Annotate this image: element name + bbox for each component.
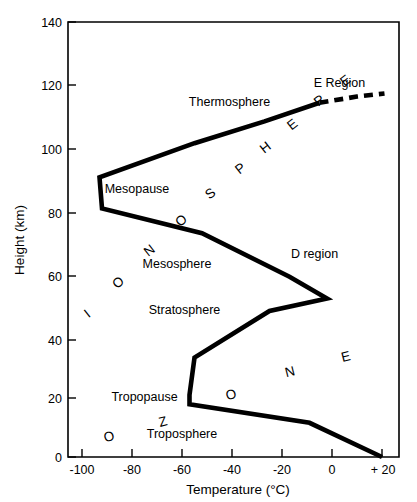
y-tick-label-40: 40	[48, 334, 62, 348]
y-tick-label-20: 20	[48, 392, 62, 406]
layer-label-troposphere: Troposphere	[147, 427, 217, 441]
layer-label-stratosphere: Stratosphere	[149, 303, 221, 317]
y-tick-label-100: 100	[41, 143, 62, 157]
ionosphere-letter-1: O	[109, 273, 127, 291]
y-tick-label-0: 0	[55, 451, 62, 465]
y-tick-label-60: 60	[48, 270, 62, 284]
x-tick-label-neg100: -100	[69, 463, 94, 477]
x-axis-tick-labels: -100 -80 -60 -40 -20 0 + 20	[69, 463, 395, 477]
ozone-letter-3: N	[283, 363, 296, 380]
y-tick-label-80: 80	[48, 207, 62, 221]
temperature-profile-dashed	[320, 93, 385, 102]
x-tick-label-0: 0	[329, 463, 336, 477]
y-tick-label-140: 140	[41, 16, 62, 30]
x-tick-label-neg40: -40	[223, 463, 241, 477]
atmosphere-temperature-profile-chart: 140 120 100 80 60 40 20 0 Height (km) -1…	[0, 0, 417, 502]
x-axis-ticks	[82, 449, 382, 457]
layer-label-thermosphere: Thermosphere	[189, 95, 270, 109]
layer-label-mesopause: Mesopause	[105, 182, 170, 196]
region-label-d-region: D region	[291, 247, 338, 261]
y-axis-ticks	[68, 22, 76, 457]
x-tick-label-neg80: -80	[123, 463, 141, 477]
y-tick-label-120: 120	[41, 79, 62, 93]
layer-label-tropopause: Tropopause	[111, 390, 177, 404]
x-tick-label-neg60: -60	[173, 463, 191, 477]
x-tick-label-neg20: -20	[273, 463, 291, 477]
ionospheric-region-labels: E RegionD region	[291, 76, 365, 261]
ozone-letter-0: O	[102, 428, 116, 445]
ozone-letter-2: O	[224, 386, 238, 403]
ionosphere-word-letters: IONOSPHERE	[81, 72, 353, 321]
ionosphere-letter-7: E	[284, 116, 300, 133]
y-axis-tick-labels: 140 120 100 80 60 40 20 0	[41, 16, 62, 465]
ionosphere-letter-0: I	[81, 306, 93, 320]
ionosphere-letter-5: P	[232, 160, 248, 177]
x-axis-title: Temperature (°C)	[186, 482, 290, 497]
ionosphere-letter-4: S	[202, 185, 218, 202]
ionosphere-letter-6: H	[257, 139, 274, 157]
x-tick-label-pos20: + 20	[371, 463, 396, 477]
y-axis-title: Height (km)	[12, 205, 27, 275]
ozone-letter-4: E	[340, 348, 352, 365]
chart-plot-area: 140 120 100 80 60 40 20 0 Height (km) -1…	[0, 0, 417, 502]
layer-label-mesosphere: Mesosphere	[143, 257, 212, 271]
